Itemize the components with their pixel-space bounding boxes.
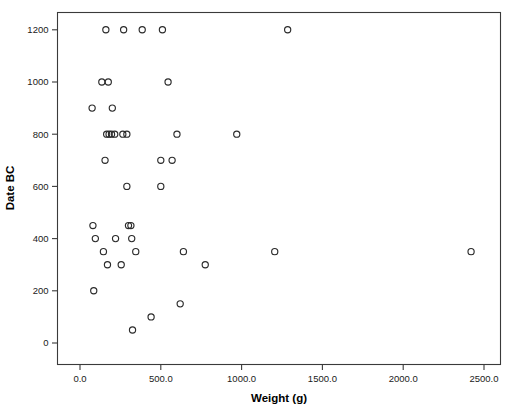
x-tick-label: 500.0 xyxy=(149,373,173,384)
data-point-marker xyxy=(180,249,186,255)
data-point-marker xyxy=(121,27,127,33)
data-point-marker xyxy=(272,249,278,255)
data-point-marker xyxy=(118,262,124,268)
data-point-marker xyxy=(285,27,291,33)
data-point-marker xyxy=(148,314,154,320)
scatter-plot-figure: 0.0500.01000.01500.02000.02500.0 0200400… xyxy=(0,0,517,414)
data-point-marker xyxy=(174,131,180,137)
data-point-marker xyxy=(92,236,98,242)
data-point-marker xyxy=(159,27,165,33)
data-point-marker xyxy=(124,183,130,189)
y-tick-label: 0 xyxy=(43,337,48,348)
data-point-marker xyxy=(158,157,164,163)
x-tick-label: 1000.0 xyxy=(227,373,256,384)
chart-canvas: 0.0500.01000.01500.02000.02500.0 0200400… xyxy=(0,0,517,414)
data-point-marker xyxy=(139,27,145,33)
data-point-marker xyxy=(202,262,208,268)
y-tick-label: 800 xyxy=(33,129,49,140)
data-points-group xyxy=(89,27,474,333)
data-point-marker xyxy=(104,262,110,268)
x-tick-label: 2500.0 xyxy=(469,373,498,384)
data-point-marker xyxy=(103,27,109,33)
data-point-marker xyxy=(158,183,164,189)
data-point-marker xyxy=(133,249,139,255)
x-tick-label: 2000.0 xyxy=(389,373,418,384)
data-point-marker xyxy=(124,131,130,137)
y-axis-tick-labels: 020040060080010001200 xyxy=(27,24,48,348)
y-tick-label: 200 xyxy=(33,285,49,296)
y-tick-label: 600 xyxy=(33,181,49,192)
x-axis-title: Weight (g) xyxy=(251,392,307,404)
x-tick-label: 1500.0 xyxy=(308,373,337,384)
data-point-marker xyxy=(112,236,118,242)
data-point-marker xyxy=(99,79,105,85)
x-axis-tick-labels: 0.0500.01000.01500.02000.02500.0 xyxy=(73,373,498,384)
y-tick-label: 1200 xyxy=(27,24,48,35)
x-axis-ticks xyxy=(80,365,484,371)
y-tick-label: 400 xyxy=(33,233,49,244)
data-point-marker xyxy=(177,301,183,307)
y-axis-title: Date BC xyxy=(4,166,16,211)
data-point-marker xyxy=(100,249,106,255)
data-point-marker xyxy=(90,222,96,228)
data-point-marker xyxy=(165,79,171,85)
data-point-marker xyxy=(129,327,135,333)
data-point-marker xyxy=(109,105,115,111)
data-point-marker xyxy=(234,131,240,137)
x-tick-label: 0.0 xyxy=(73,373,86,384)
data-point-marker xyxy=(468,249,474,255)
data-point-marker xyxy=(105,79,111,85)
y-tick-label: 1000 xyxy=(27,76,48,87)
data-point-marker xyxy=(89,105,95,111)
y-axis-ticks xyxy=(52,30,58,343)
data-point-marker xyxy=(129,236,135,242)
data-point-marker xyxy=(169,157,175,163)
data-point-marker xyxy=(91,288,97,294)
data-point-marker xyxy=(102,157,108,163)
